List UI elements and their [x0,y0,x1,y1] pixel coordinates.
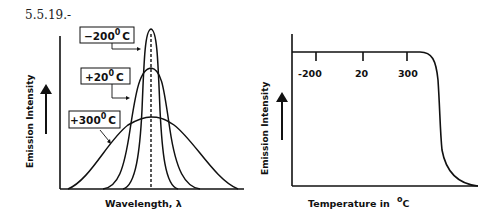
up-arrow-icon [40,84,52,134]
label-plus-20: +200C [81,68,130,100]
right-x-label: Temperature in oC [308,195,409,209]
tick-label: 300 [398,68,418,79]
right-y-label: Emission Intensity [260,82,270,175]
svg-text:+3000C: +3000C [70,112,116,126]
up-arrow-icon [276,92,288,140]
figure-canvas: Emission Intensity Wavelength, λ −2000C … [0,0,500,221]
left-y-label: Emission Intensity [25,75,35,168]
left-chart: Emission Intensity Wavelength, λ −2000C … [25,27,244,209]
right-chart: Emission Intensity -200 20 300 Temperatu… [260,34,478,209]
svg-text:−2000C: −2000C [84,28,130,42]
svg-text:+200C: +200C [85,69,124,83]
label-minus-200: −2000C [80,27,141,51]
left-x-label: Wavelength, λ [105,198,182,209]
tick-label: -200 [298,68,322,79]
tick-label: 20 [355,68,369,79]
label-plus-300: +3000C [69,111,120,144]
